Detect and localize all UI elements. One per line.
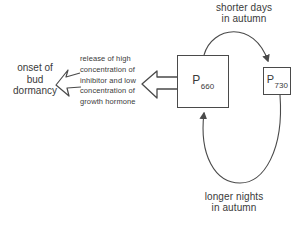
p730-box: P730 (263, 67, 291, 95)
longer-nights-label: longer nights in autumn (190, 191, 278, 213)
shorter-days-label: shorter days in autumn (206, 2, 282, 24)
longer-nights-arc-arrow-icon (203, 95, 280, 183)
p660-label: P660 (192, 73, 213, 89)
hormone-release-label: release of high concentration of inhibit… (80, 54, 150, 108)
p660-box: P660 (177, 55, 229, 108)
onset-bud-dormancy-label: onset of bud dormancy (6, 62, 64, 97)
p730-label: P730 (267, 73, 288, 88)
phytochrome-dormancy-diagram: shorter days in autumn longer nights in … (0, 0, 298, 227)
